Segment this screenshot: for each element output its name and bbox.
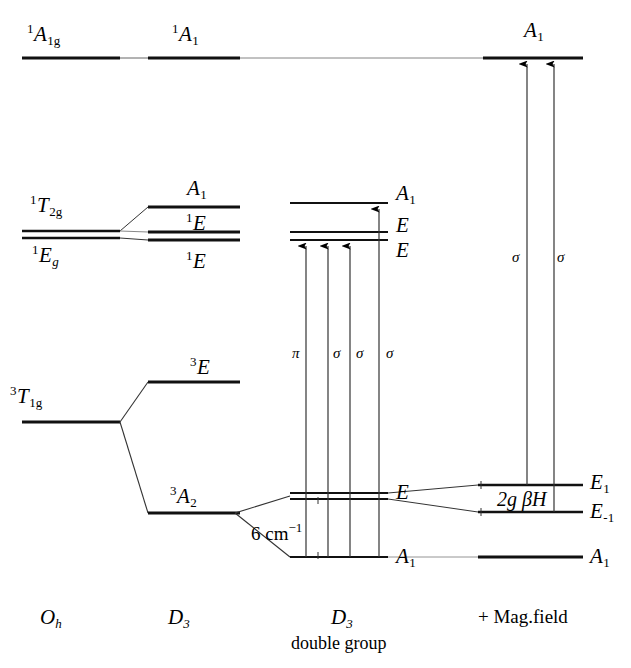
level-label-d3-e-triplet: 3E: [190, 355, 210, 378]
transition-label-sigma-mag-2: σ: [557, 250, 564, 265]
splitting-energy-label: 6 cm−1: [251, 521, 302, 543]
correlation-t2g-a1: [120, 207, 148, 231]
transition-label-sigma-3: σ: [386, 346, 393, 361]
column-header-oh: Oh: [40, 607, 62, 630]
level-label-mf-em1: E-1: [590, 501, 614, 524]
correlation-d3a2-to-e: [235, 496, 290, 513]
level-label-oh-t2g: 1T2g: [30, 193, 62, 218]
level-label-oh-a1g: 1A1g: [27, 22, 60, 47]
level-label-oh-t1g: 3T1g: [10, 384, 42, 409]
level-label-dg-e-upper: E: [396, 215, 409, 236]
energy-level-diagram: 1A1g 1T2g 1Eg 3T1g 1A1 A1 1E 1E 3E 3A2 A…: [0, 0, 631, 668]
level-label-d3-a1-top: 1A1: [172, 22, 199, 47]
level-label-dg-a1-top: A1: [396, 183, 416, 206]
transition-label-pi: π: [292, 346, 300, 361]
correlation-t1g-a2: [120, 422, 148, 513]
level-label-dg-e-lower: E: [396, 240, 409, 261]
column-header-d3: D3: [168, 607, 190, 630]
level-label-dg-a1-bottom: A1: [396, 546, 416, 569]
level-label-d3-a2: 3A2: [170, 484, 197, 509]
column-header-d3-double: D3: [331, 607, 353, 630]
level-label-mf-e1: E1: [590, 472, 610, 495]
level-label-d3-e-lower: 1E: [186, 249, 206, 272]
transition-label-sigma-1: σ: [333, 346, 340, 361]
transition-label-sigma-mag-1: σ: [512, 250, 519, 265]
column-header-magfield: + Mag.field: [478, 607, 568, 626]
level-label-dg-e-ground: E: [396, 482, 409, 503]
transition-label-sigma-2: σ: [356, 346, 363, 361]
correlation-t2g-e: [120, 231, 148, 232]
level-label-mf-a1-top: A1: [524, 20, 544, 43]
diagram-lines-layer: [0, 0, 631, 668]
column-subheader-double-group: double group: [291, 634, 386, 652]
zeeman-splitting-label: 2g βH: [497, 489, 546, 509]
level-label-d3-e-upper: 1E: [186, 211, 206, 234]
correlation-eg-e: [120, 238, 148, 240]
correlation-t1g-e: [120, 382, 148, 422]
level-label-d3-a1: A1: [187, 178, 207, 201]
level-label-oh-eg: 1Eg: [32, 243, 59, 268]
level-label-mf-a1-bottom: A1: [590, 546, 610, 569]
